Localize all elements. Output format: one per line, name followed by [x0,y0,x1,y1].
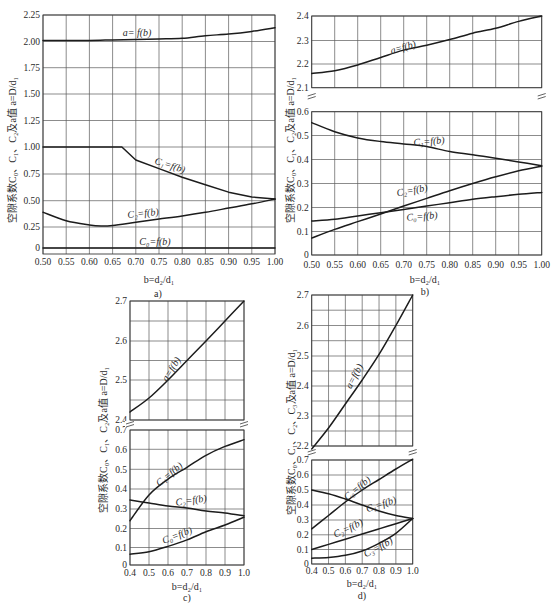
x-tick-label: 0.4 [306,566,318,576]
x-tick-label: 0.95 [510,260,527,270]
y-tick-label: 1.75 [23,63,40,73]
x-tick-label: 0.6 [162,568,174,578]
y-tick-label: 0.4 [115,484,127,494]
panel-caption: d) [358,590,366,602]
x-axis-label: b=d₂/d₁ [144,274,174,285]
x-tick-label: 0.50 [303,260,320,270]
x-tick-label: 0.85 [197,257,214,267]
y-tick-label: 0.3 [297,515,309,525]
x-tick-label: 0.9 [390,566,402,576]
x-tick-label: 0.55 [58,257,75,267]
y-axis-label: 空隙系数C₀、C₁、C₂及a值 a=D/d₁ [6,77,18,223]
x-tick-label: 1.00 [533,260,550,270]
y-tick-label: 2.3 [297,36,309,46]
x-tick-label: 0.50 [35,257,52,267]
x-tick-label: 0.7 [181,568,193,578]
y-tick-label: 2.00 [23,37,40,47]
x-tick-label: 0.75 [418,260,435,270]
x-tick-label: 0.6 [339,566,351,576]
x-axis-label: b=d₂/d₁ [410,274,440,285]
figure-canvas: 00.250.500.751.001.251.501.752.002.250.5… [0,0,559,609]
x-tick-label: 0.65 [104,257,121,267]
plot-area-b-0: 2.12.22.32.4 [297,11,542,93]
y-tick-label: 0.3 [297,179,309,189]
y-tick-label: 2.6 [115,336,127,346]
x-tick-label: 0.55 [326,260,343,270]
curve-label-C1: C₁=f(b) [153,459,185,489]
y-tick-label: 0.6 [297,470,309,480]
x-tick-label: 0.75 [151,257,168,267]
y-tick-label: 0.7 [297,455,309,465]
x-tick-label: 0.7 [356,566,368,576]
x-tick-label: 0.8 [200,568,212,578]
y-axis-label: 空隙系数C₀、C₁、C₂、C₃及a值 a=D/d₁ [285,349,297,515]
chart-panel-b: 2.12.22.32.400.10.20.30.40.50.60.500.550… [284,11,551,297]
chart-panel-d: 2.22.32.42.52.62.700.10.20.30.40.50.60.7… [285,290,419,601]
y-tick-label: 0.1 [115,543,127,553]
y-tick-label: 2.3 [297,411,309,421]
x-tick-label: 1.0 [407,566,419,576]
y-tick-label: 2.4 [297,381,309,391]
y-tick-label: 0.2 [115,524,127,534]
x-tick-label: 1.0 [238,568,250,578]
axis-break-icon [125,421,135,427]
x-axis-label: b=d₂/d₁ [347,578,377,589]
panel-caption: c) [183,592,191,604]
y-tick-label: 2.6 [297,321,309,331]
curve-label-C0: C₀=f(b) [139,236,171,248]
y-tick-label: 1.25 [23,116,40,126]
y-tick-label: 0.4 [297,500,309,510]
x-axis-label: b=d₂/d₁ [172,581,202,592]
y-tick-label: 2.7 [297,290,309,300]
plot-area-d-1: 00.10.20.30.40.50.60.7 [297,455,413,569]
y-tick-label: 0.5 [297,131,309,141]
x-tick-label: 0.90 [220,257,237,267]
x-tick-label: 1.00 [267,257,284,267]
curve-label-C2: C₂=f(b) [127,206,160,221]
y-tick-label: 2.4 [297,11,309,21]
y-tick-label: 0.1 [297,545,309,555]
x-tick-label: 0.85 [464,260,481,270]
y-tick-label: 0.1 [297,227,309,237]
y-axis-label: 空隙系数C₀、C₁、C₂及a值 a=D/d₁ [97,367,109,513]
x-tick-label: 0.8 [373,566,385,576]
axis-break-icon [408,449,418,455]
x-tick-label: 0.80 [174,257,191,267]
axis-break-icon [307,93,317,99]
x-tick-label: 0.5 [143,568,155,578]
y-tick-label: 0.5 [115,465,127,475]
x-tick-label: 0.4 [124,568,136,578]
x-tick-label: 0.70 [395,260,412,270]
y-tick-label: 0.25 [23,222,40,232]
y-tick-label: 2.5 [115,375,127,385]
y-axis-label: 空隙系数C₀、C₁、C₂及a值 a=D/d₁ [284,77,296,223]
y-tick-label: 0.6 [115,445,127,455]
x-tick-label: 0.95 [243,257,260,267]
curve-label-C0: C₀=f(b) [406,209,439,224]
y-tick-label: 1.50 [23,89,40,99]
curve-label-a: a=f(b) [159,354,183,383]
panel-caption: b) [421,286,429,298]
y-tick-label: 0.6 [297,107,309,117]
y-tick-label: 0.3 [115,504,127,514]
y-tick-label: 2.5 [297,351,309,361]
y-tick-label: 2.1 [297,83,309,93]
x-tick-label: 0.80 [441,260,458,270]
curve-label-C2: C₂=f(b) [175,492,208,508]
axis-break-icon [239,421,249,427]
curve-label-C3: C₃=f(b) [362,534,396,560]
y-tick-label: 2.7 [115,296,127,306]
y-tick-label: 0.75 [23,169,40,179]
axis-break-icon [307,449,317,455]
x-tick-label: 0.5 [323,566,335,576]
x-tick-label: 0.65 [372,260,389,270]
y-tick-label: 2.2 [297,59,309,69]
x-tick-label: 0.70 [127,257,144,267]
y-tick-label: 0 [304,250,309,260]
y-tick-label: 0.50 [23,196,40,206]
curve-label-a: a= f(b) [123,27,152,39]
y-tick-label: 0.2 [297,530,309,540]
panel-caption: a) [154,288,162,300]
x-tick-label: 0.60 [81,257,98,267]
y-tick-label: 2.25 [23,10,40,20]
